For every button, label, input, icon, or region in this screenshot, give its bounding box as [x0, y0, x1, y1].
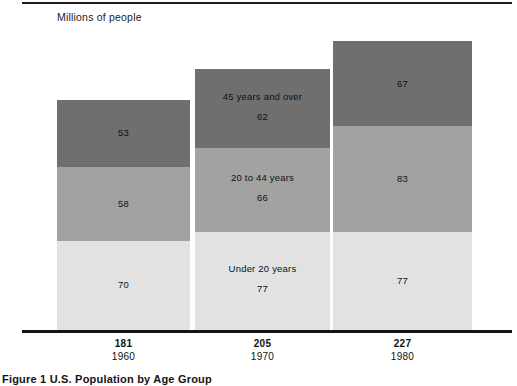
segment-value-label: 83: [333, 173, 472, 184]
segment-category-label: Under 20 years: [195, 263, 330, 274]
bar-segment-45-and-over-1980: 67: [333, 41, 472, 126]
axis-total-label: 227: [333, 337, 472, 350]
figure-caption: Figure 1 U.S. Population by Age Group: [2, 373, 212, 385]
axis-year-label: 1960: [57, 350, 190, 363]
segment-value-label: 77: [195, 283, 330, 294]
bar-segment-20-to-44-1970: 20 to 44 years66: [195, 148, 330, 232]
bar-segment-under-20-1970: Under 20 years77: [195, 232, 330, 330]
axis-total-label: 181: [57, 337, 190, 350]
bar-segment-under-20-1980: 77: [333, 232, 472, 330]
axis-year-label: 1970: [195, 350, 330, 363]
axis-tick-1960: 1811960: [57, 337, 190, 363]
segment-value-label: 62: [195, 111, 330, 122]
segment-value-label: 70: [57, 279, 190, 290]
axis-total-label: 205: [195, 337, 330, 350]
segment-value-label: 53: [57, 127, 190, 138]
segment-value-label: 77: [333, 275, 472, 286]
figure-container: Millions of people 535870181196045 years…: [0, 0, 517, 386]
bar-segment-45-and-over-1970: 45 years and over62: [195, 69, 330, 148]
segment-category-label: 20 to 44 years: [195, 172, 330, 183]
chart-plot-area: 535870181196045 years and over6220 to 44…: [0, 0, 517, 386]
bar-1970: 45 years and over6220 to 44 years66Under…: [195, 69, 330, 330]
axis-year-label: 1980: [333, 350, 472, 363]
axis-tick-1970: 2051970: [195, 337, 330, 363]
segment-value-label: 58: [57, 198, 190, 209]
bar-1980: 678377: [333, 41, 472, 330]
segment-value-label: 67: [333, 78, 472, 89]
axis-tick-1980: 2271980: [333, 337, 472, 363]
bar-segment-20-to-44-1960: 58: [57, 167, 190, 241]
bar-1960: 535870: [57, 100, 190, 330]
segment-category-label: 45 years and over: [195, 91, 330, 102]
segment-value-label: 66: [195, 192, 330, 203]
bar-segment-45-and-over-1960: 53: [57, 100, 190, 167]
bar-segment-under-20-1960: 70: [57, 241, 190, 330]
bar-segment-20-to-44-1980: 83: [333, 126, 472, 232]
x-axis-baseline: [22, 330, 512, 333]
